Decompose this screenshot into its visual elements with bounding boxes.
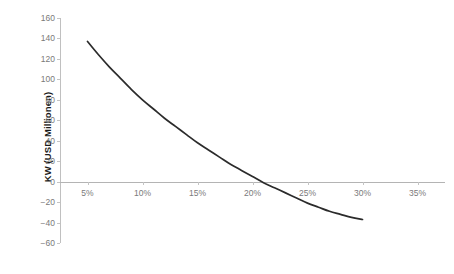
- y-tick-label: 20: [46, 157, 55, 166]
- y-tick-label: 160: [41, 14, 55, 23]
- y-tick-label: 40: [46, 136, 55, 145]
- y-tick-label: 0: [50, 177, 55, 186]
- y-tick-label: −40: [41, 218, 55, 227]
- chart-figure: KW (USD Millionen) 160140120100806040200…: [0, 0, 454, 274]
- y-tick-label: 140: [41, 34, 55, 43]
- y-tick-label: −20: [41, 198, 55, 207]
- y-tick-label: 100: [41, 75, 55, 84]
- series-line-kw: [60, 18, 445, 243]
- y-tick-mark: [57, 243, 61, 244]
- y-tick-label: −60: [41, 239, 55, 248]
- y-tick-label: 60: [46, 116, 55, 125]
- y-tick-label: 120: [41, 55, 55, 64]
- y-tick-label: 80: [46, 96, 55, 105]
- plot-area: 160140120100806040200−20−40−60 5%10%15%2…: [60, 18, 445, 243]
